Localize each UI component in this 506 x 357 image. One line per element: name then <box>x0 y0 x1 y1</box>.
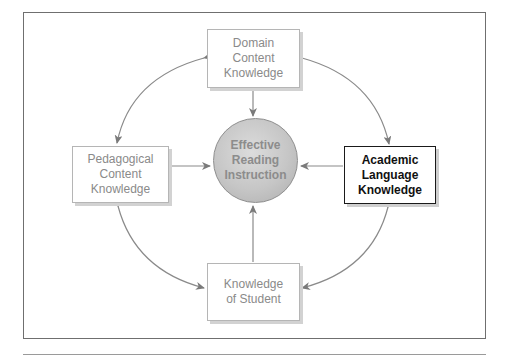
arrow-left-bottom-curve <box>118 206 204 288</box>
node-academic-language-knowledge: Academic Language Knowledge <box>344 146 436 204</box>
center-node-effective-reading-instruction: Effective Reading Instruction <box>213 118 298 203</box>
arrow-top-left-curve <box>117 58 204 143</box>
node-label: Domain Content Knowledge <box>224 36 283 81</box>
arrow-top-right-curve <box>302 58 389 144</box>
node-domain-content-knowledge: Domain Content Knowledge <box>207 29 300 88</box>
node-pedagogical-content-knowledge: Pedagogical Content Knowledge <box>72 146 169 203</box>
node-label: Academic Language Knowledge <box>358 153 422 198</box>
node-label: Knowledge of Student <box>224 277 283 307</box>
arrow-right-bottom-curve <box>302 207 388 288</box>
node-knowledge-of-student: Knowledge of Student <box>207 263 300 321</box>
node-label: Pedagogical Content Knowledge <box>87 152 153 197</box>
center-label: Effective Reading Instruction <box>225 138 287 183</box>
